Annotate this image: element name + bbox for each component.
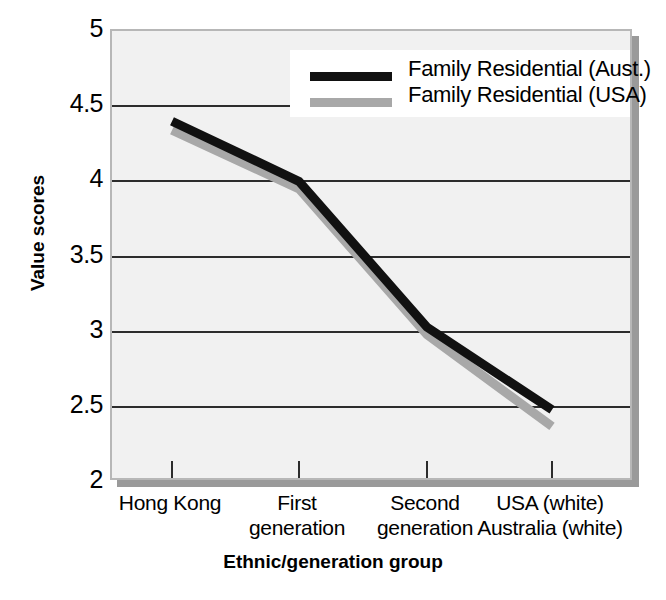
y-axis-tick-label: 5	[43, 16, 103, 41]
chart-figure: 54.543.532.52 Value scores Hong KongFirs…	[0, 0, 666, 600]
legend-color-swatch	[310, 72, 392, 81]
legend-color-swatch	[310, 98, 392, 107]
legend-label: Family Residential (Aust.)	[408, 56, 651, 82]
x-axis-tick-label: USA (white)Australia (white)	[455, 490, 645, 540]
y-axis-tick-label: 4.5	[43, 91, 103, 116]
y-axis-tick-label: 3	[43, 317, 103, 342]
series-line	[172, 130, 552, 426]
x-axis-title: Ethnic/generation group	[0, 551, 666, 573]
y-axis-title: Value scores	[27, 133, 49, 333]
x-axis-tick-label-line: Australia (white)	[455, 515, 645, 540]
x-axis-tick-label-line: USA (white)	[455, 490, 645, 515]
y-axis-tick-label: 3.5	[43, 242, 103, 267]
x-axis-tick-labels: Hong KongFirstgenerationSecondgeneration…	[0, 490, 666, 550]
y-axis-tick-label: 4	[43, 166, 103, 191]
legend: Family Residential (Aust.)Family Residen…	[290, 50, 630, 117]
y-axis-tick-label: 2	[43, 467, 103, 492]
y-axis-tick-label: 2.5	[43, 392, 103, 417]
legend-label: Family Residential (USA)	[408, 82, 647, 108]
